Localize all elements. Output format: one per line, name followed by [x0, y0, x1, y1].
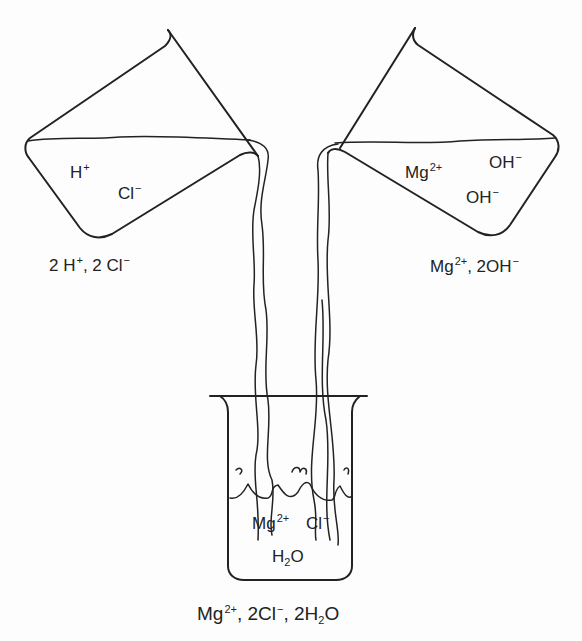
- caption-part: , 2Cl: [237, 603, 276, 624]
- caption-part: Mg: [430, 257, 454, 276]
- caption-charge: 2+: [224, 603, 237, 615]
- ion-charge: −: [493, 186, 499, 198]
- right-liquid-surface: [335, 138, 555, 143]
- left-liquid-surface: [28, 136, 250, 141]
- left-beaker-caption: 2 H+, 2 Cl−: [49, 255, 130, 274]
- right-ion-hydroxide-2: OH−: [466, 187, 499, 206]
- right-beaker-caption: Mg2+, 2OH−: [430, 256, 519, 275]
- caption-part: , 2 Cl: [83, 256, 123, 275]
- ion-charge: 2+: [277, 512, 290, 524]
- ion-symbol: OH: [466, 188, 492, 207]
- caption-charge: −: [124, 254, 130, 266]
- ion-charge: −: [516, 151, 522, 163]
- ion-symbol: H: [70, 163, 82, 182]
- caption-part: O: [324, 603, 339, 624]
- formula-part: H: [272, 547, 284, 566]
- right-beaker-outline: [328, 28, 559, 235]
- ion-charge: 2+: [430, 161, 443, 173]
- caption-part: , 2OH: [467, 257, 511, 276]
- bottom-ion-magnesium: Mg2+: [252, 513, 289, 532]
- ion-charge: −: [135, 182, 141, 194]
- bottom-water: H2O: [272, 548, 304, 568]
- caption-part: 2 H: [49, 256, 75, 275]
- ion-symbol: Cl: [118, 184, 134, 203]
- right-ion-hydroxide-1: OH−: [489, 152, 522, 171]
- diagram-drawing: [0, 0, 582, 641]
- left-stream: [248, 140, 273, 535]
- right-ion-magnesium: Mg2+: [405, 162, 442, 181]
- ion-symbol: Mg: [405, 163, 429, 182]
- caption-charge: 2+: [455, 255, 468, 267]
- caption-part: Mg: [197, 603, 223, 624]
- right-beaker-rim: [340, 28, 415, 148]
- caption-part: , 2H: [283, 603, 318, 624]
- formula-part: O: [290, 547, 303, 566]
- ion-symbol: Cl: [306, 514, 322, 533]
- left-beaker-outline: [25, 30, 258, 237]
- left-ion-chloride: Cl−: [118, 183, 142, 202]
- neutralization-diagram: H+ Cl− 2 H+, 2 Cl− Mg2+ OH− OH− Mg2+, 2O…: [0, 0, 582, 641]
- ion-symbol: OH: [489, 153, 515, 172]
- ion-charge: +: [83, 161, 89, 173]
- left-ion-hydrogen: H+: [70, 162, 90, 181]
- ion-symbol: Mg: [252, 514, 276, 533]
- bottom-beaker-caption: Mg2+, 2Cl−, 2H2O: [197, 604, 339, 626]
- ion-charge: −: [323, 512, 329, 524]
- caption-charge: −: [513, 255, 519, 267]
- bottom-ion-chloride: Cl−: [306, 513, 330, 532]
